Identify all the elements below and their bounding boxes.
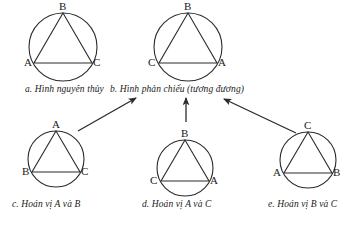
- figure-d-vertex-top: B: [181, 128, 188, 139]
- figure-d-vertex-bottom-left: C: [150, 175, 157, 186]
- circle-c: [28, 131, 84, 187]
- figure-a-vertex-bottom-right: C: [93, 57, 100, 68]
- circle-d: [157, 140, 213, 196]
- figure-a-caption: a. Hình nguyên thủy: [25, 84, 104, 94]
- figure-e-vertex-top: C: [304, 120, 311, 131]
- figure-b-caption: b. Hình phản chiếu (tương đương): [110, 84, 244, 94]
- circle-a: [29, 13, 97, 81]
- figure-d: [156, 139, 214, 197]
- figure-e-graphic: [279, 131, 337, 189]
- figure-b-vertex-bottom-right: A: [218, 57, 226, 68]
- figure-d-graphic: [156, 139, 214, 197]
- figure-a-vertex-top: B: [59, 1, 66, 12]
- figure-e-vertex-bottom-left: A: [273, 167, 281, 178]
- arrow-e-to-b: [224, 99, 296, 133]
- diagram-canvas: B A C a. Hình nguyên thủy B C A b. Hình …: [0, 0, 360, 225]
- figure-c: [27, 130, 85, 188]
- figure-b: [153, 12, 223, 82]
- figure-a-vertex-bottom-left: A: [24, 57, 32, 68]
- figure-b-vertex-top: B: [184, 1, 191, 12]
- figure-b-vertex-bottom-left: C: [148, 57, 155, 68]
- figure-e-vertex-bottom-right: B: [333, 167, 340, 178]
- figure-c-vertex-top: A: [52, 119, 60, 130]
- figure-d-vertex-bottom-right: A: [210, 175, 218, 186]
- arrow-c-to-b: [78, 98, 136, 131]
- triangle-b: [159, 13, 217, 63]
- figure-a: [28, 12, 98, 82]
- figure-c-graphic: [27, 130, 85, 188]
- figure-a-graphic: [28, 12, 98, 82]
- figure-d-caption: d. Hoán vị A và C: [142, 199, 211, 209]
- figure-c-caption: c. Hoán vị A và B: [12, 199, 80, 209]
- figure-c-vertex-bottom-left: B: [22, 166, 29, 177]
- triangle-a: [34, 13, 92, 63]
- figure-b-graphic: [153, 12, 223, 82]
- figure-e: [279, 131, 337, 189]
- circle-e: [280, 132, 336, 188]
- figure-e-caption: e. Hoán vị B và C: [268, 199, 337, 209]
- figure-c-vertex-bottom-right: C: [81, 166, 88, 177]
- circle-b: [154, 13, 222, 81]
